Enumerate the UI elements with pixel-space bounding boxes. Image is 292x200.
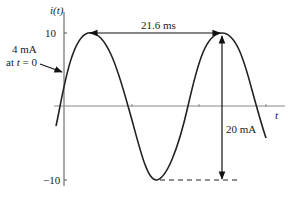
y-tick-label-neg10: −10: [43, 175, 60, 186]
peak-to-peak-label: 20 mA: [226, 124, 256, 135]
y-tick-label-10: 10: [45, 28, 56, 39]
waveform-diagram: i(t) 10 −10 t 21.6 ms 20 mA 4 mA at t = …: [0, 0, 292, 200]
y-axis-label: i(t): [50, 5, 63, 16]
initial-value-label-line1: 4 mA: [12, 44, 37, 55]
initial-value-suffix: = 0: [20, 56, 37, 68]
period-label: 21.6 ms: [140, 20, 177, 31]
x-axis-label: t: [275, 110, 278, 121]
initial-value-arrow: [40, 64, 62, 72]
initial-value-prefix: at: [6, 56, 17, 68]
initial-value-label-line2: at t = 0: [6, 57, 37, 68]
